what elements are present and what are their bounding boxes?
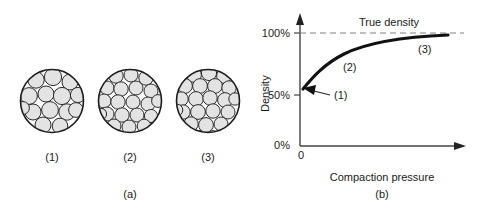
compaction-stage-diagram (0, 0, 248, 214)
curve-annotation-2: (2) (343, 62, 356, 73)
stage-3-label: (3) (201, 152, 214, 163)
stage-2-particle-cluster (95, 58, 164, 134)
y-axis-arrowhead (296, 13, 304, 25)
y-tick-label-0: 0% (250, 140, 290, 151)
true-density-label: True density (359, 17, 419, 28)
curve-annotation-1: (1) (334, 90, 347, 101)
panel-b-density-chart: 100% 50% 0% 0 Density Compaction pressur… (248, 0, 480, 214)
x-axis-arrowhead (454, 142, 466, 150)
x-tick-label-origin: 0 (294, 150, 308, 161)
stage-2-label: (2) (123, 152, 136, 163)
y-tick-label-100: 100% (250, 28, 290, 39)
figure-powder-compaction: (1) (2) (3) (a) 100% 50% 0% (0, 0, 480, 214)
stage-1-label: (1) (45, 152, 58, 163)
y-axis-title: Density (260, 75, 271, 112)
stage-1-particle-cluster (17, 60, 86, 134)
panel-b-caption: (b) (375, 189, 388, 200)
panel-a-caption: (a) (123, 189, 136, 200)
x-axis-title: Compaction pressure (330, 172, 435, 183)
panel-a-compaction-stages: (1) (2) (3) (a) (0, 0, 248, 214)
stage-3-particle-cluster (171, 57, 241, 142)
curve-annotation-3: (3) (418, 44, 431, 55)
